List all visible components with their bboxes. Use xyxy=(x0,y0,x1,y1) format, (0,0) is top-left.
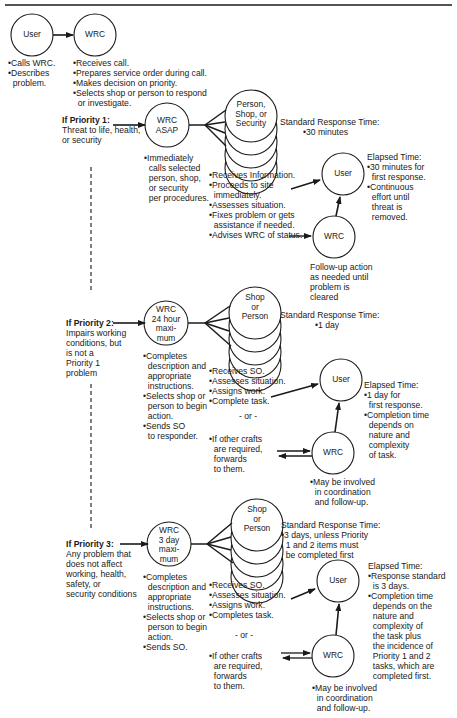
p1-description: Threat to life, health, or security xyxy=(62,125,140,145)
p3-wrc-label: WRC 3 day maxi- mum xyxy=(147,526,191,564)
p3-standard-response-value: •3 days, unless Priority 1 and 2 items m… xyxy=(281,530,368,560)
p3-responder-notes: •Receives SO. •Assesses situation. •Assi… xyxy=(209,580,286,620)
p3-fan-lines xyxy=(191,523,233,563)
p3-or-label: - or - xyxy=(235,630,253,640)
user-notes: •Calls WRC. •Describes problem. xyxy=(8,58,55,88)
p1-responder-label: Person, Shop, or Security xyxy=(225,100,277,129)
p2-or-label: - or - xyxy=(239,411,257,421)
p2-standard-response-label: Standard Response Time: xyxy=(280,310,379,320)
p2-followup-wrc-label: WRC xyxy=(312,448,354,458)
p2-elapsed-time: Elapsed Time: •1 day for first response.… xyxy=(364,380,429,460)
p3-elapsed-time: Elapsed Time: •Response standard is 3 da… xyxy=(368,561,446,681)
p3-description: Any problem that does not affect working… xyxy=(66,549,137,599)
p1-followup-wrc-label: WRC xyxy=(313,232,355,242)
p1-followup-notes: Follow-up action as needed until problem… xyxy=(310,262,373,302)
p1-fan-lines xyxy=(189,110,226,146)
p3-followup-wrc-label: WRC xyxy=(312,651,354,661)
p2-followup-notes: •May be involved in coordination and fol… xyxy=(310,477,375,507)
p1-standard-response-value: •30 minutes xyxy=(303,127,348,137)
wrc-notes: •Receives call. •Prepares service order … xyxy=(73,58,207,108)
p3-followup-notes: •May be involved in coordination and fol… xyxy=(312,683,377,713)
p1-wrc-to-user-arrow xyxy=(336,197,340,216)
p2-wrc-label: WRC 24 hour maxi- mum xyxy=(144,305,188,343)
user-node-label: User xyxy=(11,30,53,40)
p2-fan-lines xyxy=(188,306,231,346)
p1-wrc-label: WRC ASAP xyxy=(145,116,189,135)
p3-wrc-notes: •Completes description and appropriate i… xyxy=(143,572,207,652)
p1-responder-notes: •Receives Information. •Proceeds to site… xyxy=(209,170,302,240)
p1-elapsed-time: Elapsed Time: •30 minutes for first resp… xyxy=(367,152,426,222)
p2-responder-notes: •Receives SO. •Assesses situation. •Assi… xyxy=(209,366,286,406)
p3-user-label: User xyxy=(317,576,359,586)
p2-title: If Priority 2: xyxy=(66,318,114,328)
p3-responder-label: Shop or Person xyxy=(231,505,283,534)
p1-title: If Priority 1: xyxy=(62,115,110,125)
p1-user-label: User xyxy=(322,169,364,179)
p3-standard-response-label: Standard Response Time: xyxy=(281,520,380,530)
p2-wrc-to-user-arrow xyxy=(335,403,339,432)
p3-title: If Priority 3: xyxy=(66,539,114,549)
p2-responder-label: Shop or Person xyxy=(229,293,281,322)
p3-other-crafts: •If other crafts are required, forwards … xyxy=(209,651,263,691)
p2-standard-response-value: •1 day xyxy=(315,320,339,330)
p1-wrc-notes: •Immediately calls selected person, shop… xyxy=(144,153,209,203)
p2-wrc-notes: •Completes description and appropriate i… xyxy=(143,351,207,441)
p2-user-label: User xyxy=(320,375,362,385)
p3-wrc-to-user-arrow xyxy=(336,604,339,635)
p3-to-user-arrow xyxy=(291,589,315,599)
p2-other-crafts: •If other crafts are required, forwards … xyxy=(209,434,263,474)
p1-standard-response-label: Standard Response Time: xyxy=(280,117,379,127)
p2-description: Impairs working conditions, but is not a… xyxy=(66,328,126,378)
wrc-node-label: WRC xyxy=(74,30,116,40)
